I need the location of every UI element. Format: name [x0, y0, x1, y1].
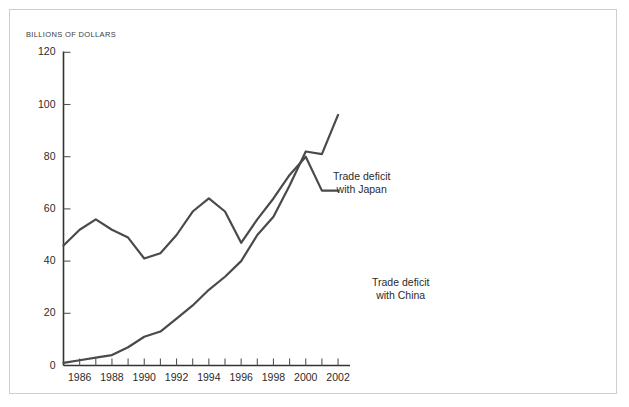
- y-tick-label: 0: [22, 359, 56, 371]
- japan-series-annotation: Trade deficit with Japan: [333, 170, 390, 196]
- y-tick-label: 20: [22, 306, 56, 318]
- y-tick-label: 100: [22, 98, 56, 110]
- axes-group: [64, 52, 351, 366]
- y-tick-label: 120: [22, 45, 56, 57]
- china-series-annotation: Trade deficit with China: [372, 276, 429, 302]
- y-tick-label: 80: [22, 150, 56, 162]
- japan-annotation-line1: Trade deficit: [333, 170, 390, 183]
- y-tick-label: 60: [22, 202, 56, 214]
- japan-annotation-line2: with Japan: [333, 183, 390, 196]
- china-annotation-line2: with China: [372, 289, 429, 302]
- plot-area: [0, 0, 629, 407]
- ticks-group: [64, 52, 339, 365]
- chart-figure: BILLIONS OF DOLLARS 020406080100120 1986…: [0, 0, 629, 407]
- series-line-china: [64, 115, 339, 363]
- x-tick-label: 2002: [315, 371, 361, 383]
- series-lines-group: [64, 115, 339, 363]
- china-annotation-line1: Trade deficit: [372, 276, 429, 289]
- y-tick-label: 40: [22, 254, 56, 266]
